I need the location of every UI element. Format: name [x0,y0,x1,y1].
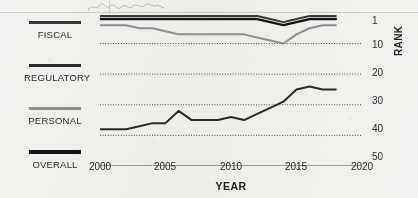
y-tick-1: 1 [372,16,392,26]
x-tick-2015: 2015 [274,162,318,172]
legend-item-overall[interactable]: OVERALL [24,150,86,170]
page-left-rule [109,0,110,14]
chart-figure: FISCAL REGULATORY PERSONAL OVERALL 1 10 … [0,0,418,198]
series-line-overall [100,19,336,25]
legend-swatch-overall [29,150,81,154]
legend-swatch-fiscal [29,21,81,24]
chart-canvas [100,14,362,166]
legend-label-regulatory: REGULATORY [24,72,86,83]
legend-item-regulatory[interactable]: REGULATORY [24,64,86,83]
legend-label-personal: PERSONAL [24,115,86,126]
legend-item-personal[interactable]: PERSONAL [24,107,86,126]
y-tick-10: 10 [372,40,392,50]
plot-area [100,14,362,166]
y-tick-50: 50 [372,152,392,162]
series-line-regulatory [100,86,336,129]
x-tick-2000: 2000 [78,162,122,172]
y-tick-20: 20 [372,68,392,78]
y-tick-30: 30 [372,96,392,106]
x-tick-2005: 2005 [143,162,187,172]
y-tick-40: 40 [372,124,392,134]
x-tick-2020: 2020 [340,162,384,172]
x-axis-title: YEAR [100,180,362,192]
legend-item-fiscal[interactable]: FISCAL [24,21,86,40]
series-line-personal [100,25,336,43]
legend-label-fiscal: FISCAL [24,29,86,40]
y-axis-title: RANK [393,26,404,57]
page-top-rule [0,12,418,13]
series-lines-group [100,16,336,129]
legend-swatch-personal [29,107,81,110]
legend-swatch-regulatory [29,64,81,67]
gridlines-group [100,44,362,166]
x-tick-2010: 2010 [209,162,253,172]
legend-label-overall: OVERALL [24,159,86,170]
